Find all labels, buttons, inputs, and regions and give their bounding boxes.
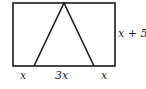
geometry-diagram: x + 5 x 3x x <box>0 0 146 89</box>
label-bottom-left: x <box>20 69 27 82</box>
label-height: x + 5 <box>118 27 146 40</box>
inscribed-triangle <box>34 3 94 66</box>
label-bottom-middle: 3x <box>55 69 69 82</box>
label-bottom-right: x <box>101 69 108 82</box>
rectangle <box>13 3 115 66</box>
